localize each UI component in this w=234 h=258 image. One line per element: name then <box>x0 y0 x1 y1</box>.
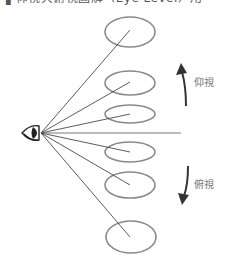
label-looking-up: 仰視 <box>194 77 214 89</box>
object-ellipse-6 <box>106 221 156 253</box>
arrow-up-icon <box>176 63 187 106</box>
eye-icon <box>22 126 39 141</box>
perspective-diagram <box>0 0 234 258</box>
object-ellipse-2 <box>105 71 155 95</box>
sight-line-5 <box>41 133 130 185</box>
object-ellipse-1 <box>105 17 155 47</box>
sight-line-6 <box>41 133 130 237</box>
viewed-objects <box>105 17 156 253</box>
sight-line-1 <box>41 30 130 133</box>
sight-lines <box>41 30 181 237</box>
sight-line-3 <box>41 114 130 133</box>
label-looking-down: 俯視 <box>194 179 214 191</box>
arrow-down-icon <box>178 166 189 205</box>
sight-line-2 <box>41 82 130 133</box>
